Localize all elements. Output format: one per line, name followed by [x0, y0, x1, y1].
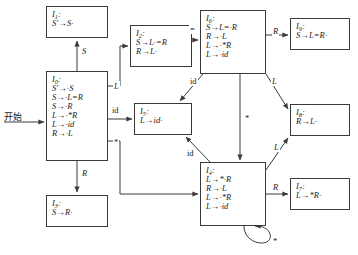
state-I3[interactable]: I3: S→R· [46, 195, 108, 227]
edge-label-R-I0-I3: R [81, 168, 88, 178]
edge-label-S-I0-I1: S [81, 46, 87, 56]
state-I4-item-3: L→·id [206, 202, 261, 211]
edge-label-id-I6-I5: id [189, 76, 198, 86]
edge-label-L-I6-I8: L [271, 76, 278, 86]
state-I1-item-0: S′→S· [52, 19, 103, 28]
state-I0-item-5: R→·L [52, 129, 103, 138]
state-I1[interactable]: I1: S′→S· [46, 6, 108, 38]
state-I9[interactable]: I9: S→L=R· [290, 18, 350, 50]
edge-label-eq-I2-I6: = [189, 24, 196, 34]
state-I2[interactable]: I2: S→L·=R R→L· [130, 25, 192, 67]
state-I7-item-0: L→*R· [296, 191, 345, 200]
state-I6[interactable]: I6: S→L=·R R→·L L→·*R L→·id [200, 10, 266, 74]
edge-label-star-I4-self: * [272, 236, 278, 246]
edge-I0-to-I4 [108, 141, 198, 194]
edge-label-id-I4-I5: id [186, 148, 195, 158]
state-I6-item-3: L→·id [206, 50, 261, 59]
state-I0[interactable]: I0: S′→·S S→·L=R S→·R L→·*R L→·id R→·L [46, 71, 108, 161]
state-I4[interactable]: I4: L→*·R R→·L L→·*R L→·id [200, 162, 266, 226]
state-I8[interactable]: I8: R→L· [290, 104, 350, 136]
edge-I0-to-I2 [108, 46, 128, 86]
state-I8-item-0: R→L· [296, 117, 345, 126]
edge-I4-self-loop [244, 226, 270, 243]
edge-label-L-I4-I8: L [273, 142, 280, 152]
state-I5[interactable]: I5: L→id· [134, 103, 192, 135]
state-I2-item-1: R→L· [136, 47, 187, 56]
edge-label-id-I0-I5: id [111, 105, 120, 115]
edge-label-R-I4-I7: R [272, 182, 279, 192]
state-I9-item-0: S→L=R· [296, 31, 345, 40]
state-I5-item-0: L→id· [140, 116, 187, 125]
state-I3-item-0: S→R· [52, 208, 103, 217]
start-label: 开始 [4, 110, 22, 123]
edge-label-star-I6-I4: * [244, 113, 250, 123]
state-I7[interactable]: I7: L→*R· [290, 178, 350, 210]
automaton-diagram: I1: S′→S· I0: S′→·S S→·L=R S→·R L→·*R L→… [0, 0, 358, 255]
edge-label-star-I0-I4: * [113, 137, 119, 147]
edge-label-L-I0-I2: L [113, 81, 120, 91]
edge-label-R-I6-I9: R [272, 26, 279, 36]
